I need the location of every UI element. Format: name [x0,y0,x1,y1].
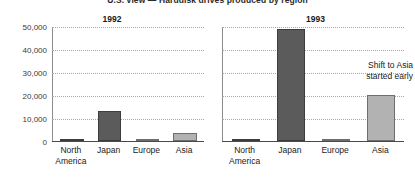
panel-1993: 1993 Shift to Asia started early North [212,0,415,183]
xlabel-north-america: North America [52,145,90,166]
xlabel-asia: Asia [165,145,203,156]
xlabel-line1: North [222,145,267,156]
xlabel-line1: Japan [267,145,312,156]
annotation-line2: started early [366,71,413,82]
x-axis-labels-1992: North America Japan Europe Asia [52,145,204,181]
xlabel-japan: Japan [267,145,312,156]
xlabel-line1: North [52,145,90,156]
xlabel-europe: Europe [313,145,358,156]
bar-1993-asia[interactable] [367,95,395,141]
xlabel-europe: Europe [128,145,166,156]
xlabel-line1: Japan [90,145,128,156]
xlabel-japan: Japan [90,145,128,156]
x-axis-labels-1993: North America Japan Europe Asia [222,145,404,181]
panel-title-1993: 1993 [214,14,415,24]
panel-1992: 1992 50,000 40,000 30,000 20,000 10,000 … [0,0,212,183]
x-axis-baseline [52,141,204,142]
ytick-label-0: 0 [43,138,47,147]
xlabel-line1: Europe [313,145,358,156]
bar-1993-japan[interactable] [277,29,305,141]
xlabel-line1: Asia [358,145,403,156]
xlabel-line2: America [222,156,267,167]
bar-1992-north-america[interactable] [60,139,83,141]
bar-1992-japan[interactable] [98,111,121,141]
ytick-label-20000: 20,000 [23,92,47,101]
plot-area-1993 [222,27,404,142]
chart-figure: U.S. view — Harddisk drives produced by … [0,0,415,183]
ytick-label-30000: 30,000 [23,69,47,78]
bar-1993-north-america[interactable] [232,139,260,141]
ytick-label-40000: 40,000 [23,46,47,55]
xlabel-north-america: North America [222,145,267,166]
bar-1992-europe[interactable] [136,139,159,141]
bar-1993-europe[interactable] [322,139,350,141]
bar-1992-asia[interactable] [173,133,196,141]
xlabel-asia: Asia [358,145,403,156]
xlabel-line2: America [52,156,90,167]
plot-area-1992: 50,000 40,000 30,000 20,000 10,000 0 [52,27,204,142]
bars-1992 [53,27,204,141]
xlabel-line1: Europe [128,145,166,156]
xlabel-line1: Asia [165,145,203,156]
annotation-shift-to-asia: Shift to Asia started early [366,60,413,82]
annotation-line1: Shift to Asia [366,60,413,71]
bars-1993 [223,27,404,141]
ytick-label-50000: 50,000 [23,23,47,32]
x-axis-baseline [222,141,404,142]
ytick-label-10000: 10,000 [23,115,47,124]
